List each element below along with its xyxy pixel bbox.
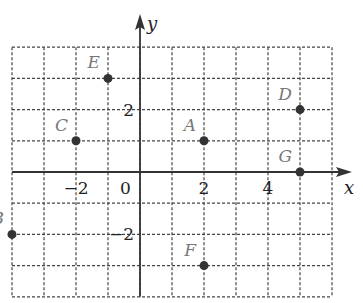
point-label-e: E bbox=[87, 52, 101, 72]
coordinate-plane: xy−20242−2ABCDEFG bbox=[0, 0, 363, 303]
point-a bbox=[200, 136, 209, 145]
x-tick-label: 4 bbox=[263, 178, 274, 198]
y-axis-label: y bbox=[146, 13, 158, 34]
point-e bbox=[104, 74, 113, 83]
point-g bbox=[296, 168, 305, 177]
point-label-a: A bbox=[182, 115, 196, 135]
point-label-c: C bbox=[55, 115, 68, 135]
x-tick-label: 0 bbox=[120, 178, 131, 198]
point-d bbox=[296, 105, 305, 114]
point-f bbox=[200, 261, 209, 270]
y-tick-label: −2 bbox=[109, 224, 134, 244]
point-label-g: G bbox=[278, 146, 292, 166]
point-label-d: D bbox=[277, 84, 292, 104]
point-label-f: F bbox=[183, 240, 197, 260]
point-c bbox=[72, 136, 81, 145]
point-label-b: B bbox=[0, 208, 4, 228]
point-b bbox=[8, 230, 17, 239]
x-axis-label: x bbox=[344, 177, 354, 198]
x-tick-label: 2 bbox=[199, 178, 210, 198]
y-tick-label: 2 bbox=[123, 100, 134, 120]
x-tick-label: −2 bbox=[63, 178, 88, 198]
